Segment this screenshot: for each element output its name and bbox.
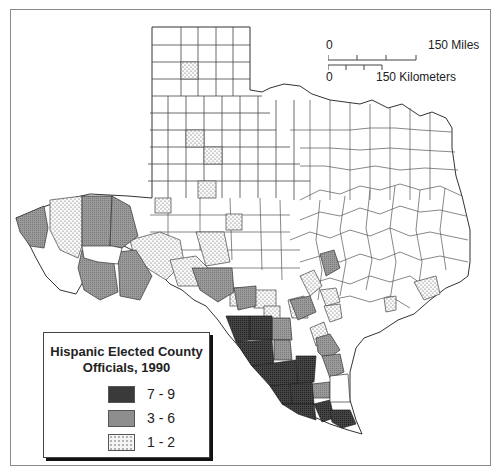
county-unshaded [330,374,350,402]
scale-bar: 0 150 Miles 0 150 Kilometers [318,38,478,88]
legend-swatch-medium [108,410,135,427]
legend-title: Hispanic Elected County Officials, 1990 [44,344,209,376]
legend-item-1-2: 1 - 2 [108,433,175,451]
scale-miles-start: 0 [326,38,333,52]
scale-km-start: 0 [326,70,333,84]
legend-item-3-6: 3 - 6 [108,409,175,427]
legend-item-7-9: 7 - 9 [108,385,175,403]
scale-km-end: 150 Kilometers [376,70,456,84]
legend-swatch-dotted [108,434,135,451]
legend-swatch-dark [108,386,135,403]
scale-miles-end: 150 Miles [428,38,479,52]
map-legend: Hispanic Elected County Officials, 1990 … [43,332,210,458]
